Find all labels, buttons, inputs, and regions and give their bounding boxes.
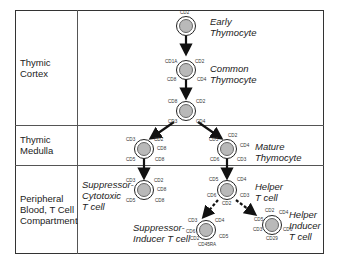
marker-label: CD8 bbox=[155, 198, 164, 203]
cell-name-mature-thymocyte: Mature Thymocyte bbox=[255, 141, 301, 163]
marker-label: CD3 bbox=[253, 227, 262, 232]
marker-label: CD8 bbox=[167, 77, 176, 82]
marker-label: CD8 bbox=[155, 157, 164, 162]
cell-name-suppressor-cytotoxic: Suppressor- Cytotoxic T cell bbox=[82, 179, 134, 212]
marker-label: CD5 bbox=[126, 157, 135, 162]
marker-label: CD2 bbox=[196, 99, 205, 104]
marker-label: CD8 bbox=[157, 146, 166, 151]
marker-label: CD6 bbox=[207, 193, 216, 198]
marker-label: CD29 bbox=[266, 236, 278, 241]
marker-label: CD2 bbox=[154, 178, 163, 183]
marker-label: CD3 bbox=[126, 137, 135, 142]
marker-label: CD3 bbox=[168, 119, 177, 124]
cell-name-helper-inducer: Helper Inducer T cell bbox=[289, 209, 321, 242]
marker-label: CD5 bbox=[219, 234, 228, 239]
marker-label: CD2 bbox=[265, 208, 274, 213]
marker-label: CD4 bbox=[237, 177, 246, 182]
cell-name-common-thymocyte: Common Thymocyte bbox=[210, 63, 256, 85]
marker-label: CD2 bbox=[154, 137, 163, 142]
marker-label: CD5 bbox=[209, 137, 218, 142]
marker-label: CD4 bbox=[215, 218, 224, 223]
marker-label: CD2 bbox=[228, 133, 237, 138]
marker-label: CD2 bbox=[190, 236, 199, 241]
marker-label: CD3 bbox=[237, 157, 246, 162]
cell-name-helper-t: Helper T cell bbox=[255, 181, 283, 203]
cell-name-suppressor-inducer: Suppressor- Inducer T cell bbox=[133, 222, 190, 244]
marker-label: CD1A bbox=[165, 59, 177, 64]
cell-name-early-thymocyte: Early Thymocyte bbox=[210, 16, 256, 38]
marker-label: CD5 bbox=[254, 217, 263, 222]
marker-label: CD6 bbox=[210, 157, 219, 162]
marker-label: CD4 bbox=[197, 77, 206, 82]
marker-label: CD2 bbox=[222, 201, 231, 206]
marker-label: CD4 bbox=[240, 143, 249, 148]
marker-label: CD3 bbox=[240, 193, 249, 198]
marker-label: CD2 bbox=[195, 59, 204, 64]
marker-label: CD45RA bbox=[198, 242, 216, 247]
marker-label: CD8 bbox=[168, 99, 177, 104]
marker-label: CD4 bbox=[279, 210, 288, 215]
marker-label: CD4 bbox=[196, 119, 205, 124]
marker-label: CD8 bbox=[157, 187, 166, 192]
marker-label: CD5 bbox=[209, 177, 218, 182]
marker-label: CD2 bbox=[180, 10, 189, 15]
